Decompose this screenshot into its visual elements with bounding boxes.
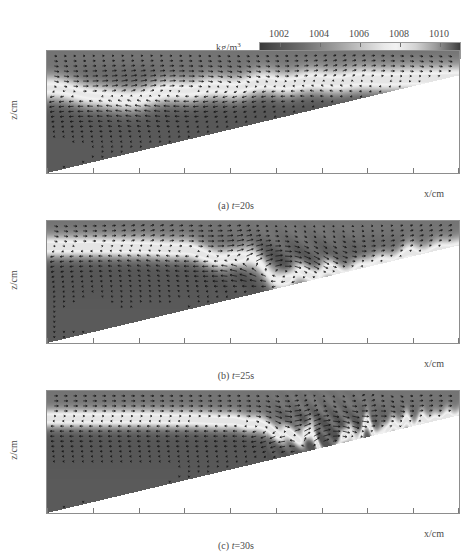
velocity-arrow: [170, 240, 174, 242]
velocity-arrow: [185, 116, 189, 118]
velocity-arrow: [390, 80, 392, 82]
x-axis-label-c: x/cm: [424, 528, 444, 539]
velocity-arrow: [320, 90, 324, 92]
velocity-arrow: [391, 235, 394, 237]
velocity-arrow: [89, 255, 93, 257]
velocity-arrow: [112, 55, 114, 57]
velocity-arrow: [147, 440, 150, 442]
colorbar-tick: [320, 43, 321, 47]
velocity-arrow: [195, 96, 199, 98]
velocity-arrow: [223, 101, 228, 103]
velocity-arrow: [323, 225, 325, 227]
velocity-arrow: [72, 420, 74, 422]
velocity-arrow: [410, 235, 414, 237]
velocity-arrow: [64, 76, 69, 78]
velocity-arrow: [90, 131, 93, 133]
velocity-arrow: [93, 410, 96, 412]
velocity-arrow: [141, 405, 145, 407]
velocity-arrow: [351, 266, 353, 268]
velocity-arrow: [448, 395, 451, 397]
velocity-arrow: [324, 439, 329, 441]
velocity-arrow: [379, 85, 381, 87]
velocity-vectors-b: [47, 221, 459, 343]
velocity-arrow: [63, 331, 65, 333]
velocity-arrow: [72, 131, 74, 133]
velocity-arrow: [72, 456, 74, 458]
velocity-arrow: [54, 86, 56, 88]
velocity-arrow: [237, 234, 243, 236]
velocity-arrow: [122, 230, 126, 232]
velocity-arrow: [246, 121, 248, 123]
velocity-arrow: [149, 136, 151, 138]
velocity-arrow: [80, 425, 83, 427]
velocity-arrow: [156, 265, 160, 267]
x-axis-tick: [47, 168, 48, 173]
velocity-arrow: [199, 235, 204, 237]
velocity-arrow: [294, 434, 296, 436]
x-axis-tick: [184, 508, 185, 513]
velocity-arrow: [185, 255, 188, 257]
velocity-arrow: [362, 70, 366, 72]
velocity-arrow: [324, 251, 328, 254]
velocity-arrow: [101, 136, 103, 138]
velocity-arrow: [54, 231, 58, 233]
velocity-arrow: [233, 285, 237, 287]
velocity-arrow: [324, 420, 331, 422]
velocity-arrow: [237, 71, 242, 73]
velocity-arrow: [89, 440, 92, 442]
velocity-arrow: [101, 246, 103, 248]
velocity-arrow: [410, 80, 412, 82]
velocity-arrow: [102, 75, 107, 77]
velocity-arrow: [141, 85, 147, 87]
velocity-arrow: [109, 275, 112, 277]
velocity-arrow: [176, 440, 179, 442]
velocity-arrow: [185, 275, 189, 277]
velocity-arrow: [262, 286, 266, 288]
velocity-arrow: [439, 235, 442, 237]
velocity-arrow: [352, 80, 354, 82]
velocity-arrow: [71, 451, 73, 453]
velocity-arrow: [372, 405, 376, 407]
velocity-arrow: [227, 405, 231, 407]
velocity-arrow: [199, 415, 201, 417]
velocity-arrow: [206, 291, 208, 293]
velocity-arrow: [164, 110, 169, 112]
velocity-arrow: [222, 265, 228, 267]
velocity-arrow: [223, 435, 227, 437]
velocity-arrow: [295, 70, 299, 72]
velocity-arrow: [266, 240, 271, 242]
velocity-arrow: [169, 461, 171, 463]
velocity-arrow: [110, 250, 112, 252]
velocity-arrow: [275, 270, 277, 272]
velocity-arrow: [290, 440, 295, 442]
velocity-arrow: [212, 270, 218, 272]
velocity-arrow: [212, 265, 218, 267]
velocity-arrow: [179, 251, 181, 253]
velocity-arrow: [352, 416, 359, 418]
velocity-arrow: [352, 260, 355, 262]
velocity-arrow: [362, 260, 364, 262]
velocity-arrow: [324, 246, 327, 248]
velocity-arrow: [400, 250, 402, 251]
velocity-arrow: [175, 430, 179, 432]
velocity-arrow: [266, 254, 273, 256]
velocity-arrow: [70, 425, 73, 427]
velocity-arrow: [169, 91, 171, 93]
velocity-arrow: [266, 76, 270, 78]
velocity-arrow: [324, 241, 327, 243]
velocity-arrow: [52, 276, 54, 278]
velocity-arrow: [256, 60, 259, 62]
velocity-arrow: [352, 230, 354, 232]
velocity-arrow: [176, 121, 179, 123]
velocity-arrow: [208, 465, 210, 467]
velocity-arrow: [71, 276, 73, 278]
velocity-arrow: [245, 116, 247, 118]
velocity-arrow: [256, 416, 261, 418]
velocity-arrow: [240, 280, 246, 282]
velocity-arrow: [275, 230, 277, 232]
velocity-arrow: [147, 125, 150, 127]
velocity-arrow: [150, 295, 152, 297]
velocity-arrow: [199, 86, 202, 88]
velocity-arrow: [381, 60, 385, 62]
velocity-arrow: [177, 126, 179, 128]
